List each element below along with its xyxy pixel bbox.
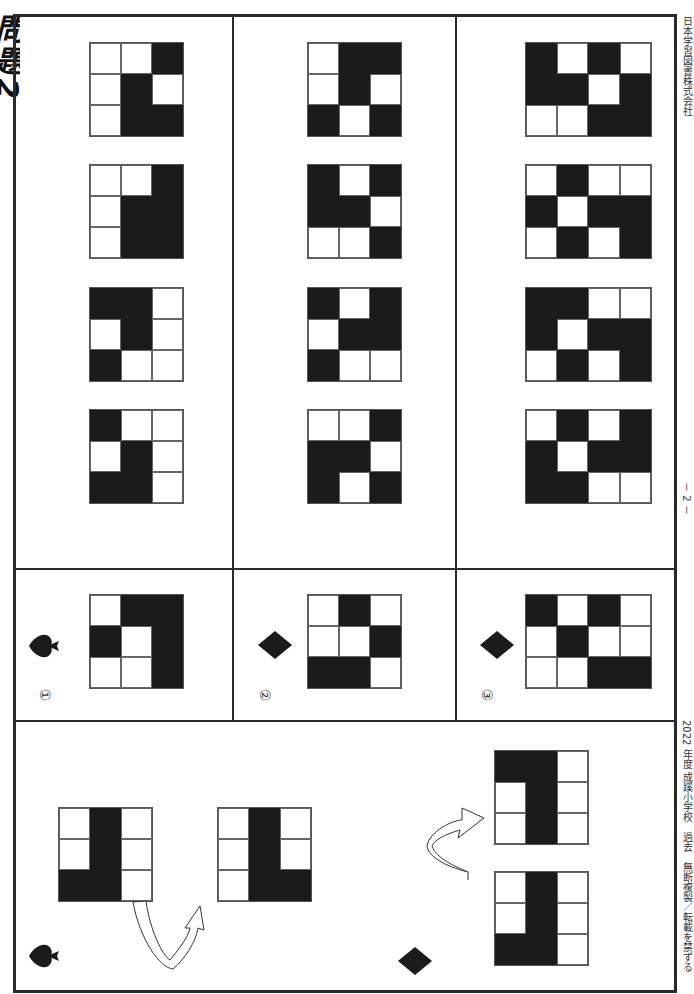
white-cell xyxy=(370,657,401,688)
black-cell xyxy=(620,319,651,350)
white-cell xyxy=(557,105,588,136)
white-cell xyxy=(588,350,619,381)
white-cell xyxy=(526,657,557,688)
white-cell xyxy=(588,227,619,258)
choice-3-2[interactable] xyxy=(525,164,652,259)
white-cell xyxy=(152,350,183,381)
black-cell xyxy=(557,288,588,319)
choice-1-1[interactable] xyxy=(89,42,184,137)
black-cell xyxy=(557,165,588,196)
black-cell xyxy=(339,196,370,227)
black-cell xyxy=(557,626,588,657)
white-cell xyxy=(339,165,370,196)
black-cell xyxy=(339,319,370,350)
white-cell xyxy=(588,410,619,441)
black-cell xyxy=(557,74,588,105)
black-cell xyxy=(308,105,339,136)
white-cell xyxy=(308,595,339,626)
black-cell xyxy=(339,74,370,105)
diamond-icon xyxy=(398,947,432,975)
black-cell xyxy=(308,165,339,196)
black-cell xyxy=(370,227,401,258)
choice-3-1[interactable] xyxy=(525,42,652,137)
black-cell xyxy=(620,74,651,105)
white-cell xyxy=(339,350,370,381)
black-cell xyxy=(90,626,121,657)
copyright-text: 2022 年度 成蹊小学校 過去 無断複製／転載を禁ずる xyxy=(679,720,694,972)
choice-1-2[interactable] xyxy=(89,164,184,259)
white-cell xyxy=(339,472,370,503)
white-cell xyxy=(370,74,401,105)
white-cell xyxy=(308,227,339,258)
black-cell xyxy=(90,350,121,381)
black-cell xyxy=(620,441,651,472)
choice-2-4[interactable] xyxy=(307,409,402,504)
choice-3-4[interactable] xyxy=(525,409,652,504)
white-cell xyxy=(557,903,588,934)
black-cell xyxy=(90,839,121,870)
black-cell xyxy=(620,196,651,227)
black-cell xyxy=(121,227,152,258)
black-cell xyxy=(370,43,401,74)
black-cell xyxy=(90,808,121,839)
white-cell xyxy=(588,288,619,319)
white-cell xyxy=(59,839,90,870)
white-cell xyxy=(557,441,588,472)
black-cell xyxy=(121,472,152,503)
black-cell xyxy=(152,227,183,258)
choice-3-3[interactable] xyxy=(525,287,652,382)
black-cell xyxy=(557,350,588,381)
white-cell xyxy=(526,410,557,441)
white-cell xyxy=(121,410,152,441)
choice-1-3[interactable] xyxy=(89,287,184,382)
white-cell xyxy=(370,441,401,472)
white-cell xyxy=(59,808,90,839)
curved-arrow-icon xyxy=(424,806,514,888)
black-cell xyxy=(152,165,183,196)
white-cell xyxy=(620,165,651,196)
white-cell xyxy=(90,165,121,196)
white-cell xyxy=(308,319,339,350)
question-label-3: ③ xyxy=(479,689,495,702)
white-cell xyxy=(370,196,401,227)
white-cell xyxy=(557,813,588,844)
black-cell xyxy=(526,903,557,934)
white-cell xyxy=(339,410,370,441)
black-cell xyxy=(339,595,370,626)
black-cell xyxy=(526,472,557,503)
diamond-icon xyxy=(480,631,514,659)
given-grid-3 xyxy=(525,594,652,689)
black-cell xyxy=(152,105,183,136)
black-cell xyxy=(121,74,152,105)
white-cell xyxy=(339,105,370,136)
black-cell xyxy=(121,441,152,472)
white-cell xyxy=(557,196,588,227)
white-cell xyxy=(526,350,557,381)
white-cell xyxy=(90,595,121,626)
white-cell xyxy=(370,350,401,381)
choice-1-4[interactable] xyxy=(89,409,184,504)
white-cell xyxy=(152,410,183,441)
black-cell xyxy=(557,472,588,503)
white-cell xyxy=(620,626,651,657)
black-cell xyxy=(620,105,651,136)
white-cell xyxy=(339,288,370,319)
black-cell xyxy=(526,595,557,626)
choice-2-1[interactable] xyxy=(307,42,402,137)
white-cell xyxy=(90,74,121,105)
black-cell xyxy=(620,350,651,381)
white-cell xyxy=(557,595,588,626)
white-cell xyxy=(90,657,121,688)
white-cell xyxy=(620,288,651,319)
black-cell xyxy=(152,43,183,74)
black-cell xyxy=(370,410,401,441)
black-cell xyxy=(280,870,311,901)
curved-arrow-icon xyxy=(130,900,212,972)
black-cell xyxy=(370,626,401,657)
choice-2-2[interactable] xyxy=(307,164,402,259)
black-cell xyxy=(588,196,619,227)
white-cell xyxy=(339,626,370,657)
white-cell xyxy=(121,870,152,901)
choice-2-3[interactable] xyxy=(307,287,402,382)
black-cell xyxy=(308,350,339,381)
